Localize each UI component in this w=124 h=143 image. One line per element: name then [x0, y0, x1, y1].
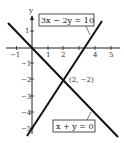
x-tick-label: 1	[46, 51, 50, 59]
y-axis-label: y	[28, 7, 33, 15]
y-tick-label: 1	[25, 27, 29, 35]
x-tick-label: 5	[109, 51, 113, 59]
y-tick-label: −4	[21, 109, 32, 117]
x-tick-label: −1	[10, 51, 20, 59]
leader-line	[86, 26, 90, 35]
y-axis-arrow-icon	[30, 15, 34, 20]
leader-line	[87, 112, 91, 120]
y-tick-label: −3	[21, 93, 31, 101]
x-tick-label: 2	[61, 51, 65, 59]
equation-label: 3x − 2y = 10	[41, 16, 94, 25]
y-tick-label: −1	[21, 60, 31, 68]
chart: y −1 1 2 4 5 1 −1 −2 −3 −4 −5 3x − 2y = …	[0, 0, 124, 143]
x-tick-label: 4	[93, 51, 98, 59]
intersection-label: (2, −2)	[69, 76, 94, 84]
equation-label: x + y = 0	[56, 122, 94, 131]
y-tick-label: −2	[21, 76, 31, 84]
